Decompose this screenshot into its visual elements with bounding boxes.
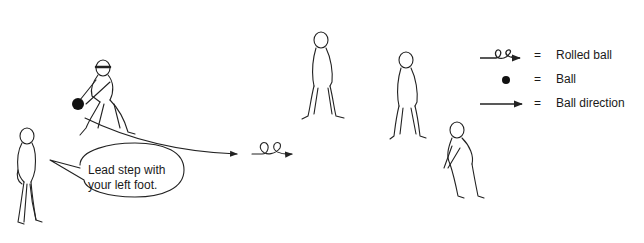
equals-sign: = [534,48,541,62]
rolled-ball-icon [252,143,292,155]
coach-figure [17,128,42,224]
passer-figure [80,60,135,135]
rolled-ball-icon [474,46,534,66]
equals-sign: = [534,96,541,110]
speech-line-2: your left foot. [88,178,184,193]
speech-line-1: Lead step with [88,163,184,178]
ball-icon [72,98,84,110]
ball-icon [474,70,534,90]
legend-label-ball-direction: Ball direction [556,96,625,110]
legend-row-ball-direction: = Ball direction [474,94,644,114]
receiver-figure-3 [444,122,484,198]
legend-row-ball: = Ball [474,70,644,90]
ball-direction-arrow [85,118,237,154]
arrow-icon [474,94,534,114]
receiver-figure-1 [302,32,344,119]
speech-bubble-text: Lead step with your left foot. [88,163,184,193]
legend-label-ball: Ball [556,72,576,86]
equals-sign: = [534,72,541,86]
legend-label-rolled-ball: Rolled ball [556,48,612,62]
legend-row-rolled-ball: = Rolled ball [474,46,644,66]
receiver-figure-2 [390,52,426,139]
drill-diagram [0,0,644,243]
